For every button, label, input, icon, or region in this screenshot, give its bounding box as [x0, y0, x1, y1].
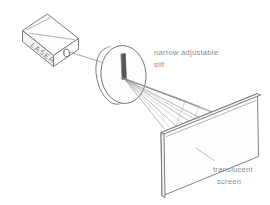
slit-label-group: narrow adjustable slit	[154, 48, 218, 69]
ray-8	[124, 79, 209, 123]
diagram-canvas: LASER	[0, 0, 270, 205]
screen-left-edge	[161, 133, 165, 198]
screen-label-line2: screen	[217, 177, 241, 186]
screen-front-face	[161, 94, 259, 197]
slit-label-line1: narrow adjustable	[154, 48, 218, 57]
slit-disk-edge-bottom	[118, 103, 123, 104]
screen-label-line1: translucent	[213, 165, 254, 174]
slit-label-line2: slit	[154, 60, 165, 69]
laser-source: LASER	[23, 14, 79, 67]
ray-9	[124, 79, 201, 124]
screen-panel-icon	[161, 94, 261, 198]
slit-disk-edge-top	[105, 46, 111, 48]
optics-diagram: LASER	[0, 0, 270, 205]
ray-13	[124, 79, 170, 128]
